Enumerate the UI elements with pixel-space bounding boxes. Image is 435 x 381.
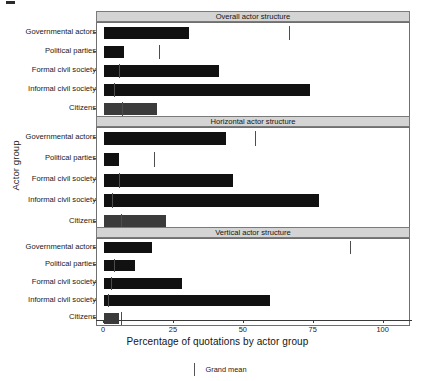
bar-row: [104, 84, 406, 96]
grand-mean-marker: [122, 102, 123, 116]
y-tick-label: Political parties: [0, 154, 96, 162]
bar-row: [104, 65, 406, 77]
bar-row: [104, 153, 406, 166]
x-axis-line: [96, 320, 412, 321]
bar-row: [104, 295, 406, 306]
bar: [104, 103, 157, 115]
y-tick-label: Informal civil society: [0, 85, 96, 93]
bar: [104, 65, 219, 77]
grand-mean-marker: [114, 259, 115, 272]
bar: [104, 313, 119, 324]
y-tick-label: Governmental actors: [0, 28, 96, 36]
y-tick-label: Governmental actors: [0, 243, 96, 251]
y-tick-label: Citizens: [0, 313, 96, 321]
bar: [104, 174, 233, 187]
grand-mean-marker: [108, 294, 109, 307]
bar-row: [104, 242, 406, 253]
y-tick-label: Governmental actors: [0, 133, 96, 141]
bar: [104, 194, 319, 207]
facet-strip-label: Vertical actor structure: [96, 227, 410, 238]
facet-plot-area: [96, 238, 410, 326]
grand-mean-marker: [112, 193, 113, 208]
bar-row: [104, 313, 406, 324]
grand-mean-marker: [159, 45, 160, 59]
bar-row: [104, 46, 406, 58]
x-tick-mark: [313, 320, 314, 323]
grand-mean-marker: [121, 312, 122, 325]
x-tick-label: 100: [368, 325, 398, 334]
x-tick-mark: [243, 320, 244, 323]
bar: [104, 242, 152, 253]
x-tick-label: 25: [158, 325, 188, 334]
bar: [104, 84, 310, 96]
bar-row: [104, 103, 406, 115]
y-tick-label: Informal civil society: [0, 196, 96, 204]
facet-plot-area: [96, 22, 410, 117]
bar-row: [104, 278, 406, 289]
y-tick-label: Citizens: [0, 104, 96, 112]
bar: [104, 132, 226, 145]
facet-strip-label: Overall actor structure: [96, 11, 410, 22]
x-tick-mark: [173, 320, 174, 323]
y-tick-label: Formal civil society: [0, 175, 96, 183]
legend-label: Grand mean: [205, 365, 246, 374]
x-tick-mark: [383, 320, 384, 323]
cropped-artifact: [6, 1, 15, 4]
grand-mean-marker: [119, 64, 120, 78]
bar: [104, 260, 135, 271]
x-tick-label: 50: [228, 325, 258, 334]
grand-mean-marker: [289, 26, 290, 40]
x-axis-title: Percentage of quotations by actor group: [0, 336, 435, 347]
grand-mean-marker: [111, 277, 112, 290]
grand-mean-marker: [114, 83, 115, 97]
facet-strip-label: Horizontal actor structure: [96, 116, 410, 127]
bar-row: [104, 260, 406, 271]
bar-row: [104, 174, 406, 187]
grand-mean-marker: [119, 173, 120, 188]
bar-row: [104, 27, 406, 39]
y-tick-label: Formal civil society: [0, 278, 96, 286]
x-tick-label: 0: [88, 325, 118, 334]
grand-mean-legend-key: [188, 362, 201, 377]
y-tick-label: Citizens: [0, 217, 96, 225]
bar-row: [104, 194, 406, 207]
bar: [104, 153, 119, 166]
chart-figure: Actor group Overall actor structureGover…: [0, 0, 435, 381]
y-tick-label: Political parties: [0, 260, 96, 268]
grand-mean-marker: [350, 241, 351, 254]
facet-plot-area: [96, 127, 410, 231]
bar: [104, 295, 270, 306]
legend: Grand mean: [0, 362, 435, 381]
y-tick-label: Informal civil society: [0, 296, 96, 304]
grand-mean-marker: [154, 152, 155, 167]
bar: [104, 27, 189, 39]
bar: [104, 46, 124, 58]
grand-mean-marker: [255, 131, 256, 146]
x-tick-label: 75: [298, 325, 328, 334]
bar: [104, 278, 182, 289]
x-tick-mark: [103, 320, 104, 323]
y-tick-label: Political parties: [0, 47, 96, 55]
y-tick-label: Formal civil society: [0, 66, 96, 74]
